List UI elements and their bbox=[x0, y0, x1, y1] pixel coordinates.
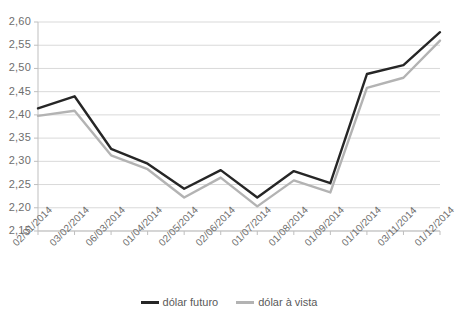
y-axis-label: 2,55 bbox=[9, 39, 31, 50]
y-axis-label: 2,30 bbox=[9, 155, 31, 166]
legend-item[interactable]: dólar futuro bbox=[141, 296, 219, 308]
y-axis-label: 2,50 bbox=[9, 62, 31, 73]
series-lines bbox=[38, 32, 440, 206]
legend-label: dólar futuro bbox=[163, 296, 219, 308]
y-axis-label: 2,20 bbox=[9, 202, 31, 213]
plot-area bbox=[0, 0, 458, 321]
line-chart: 2,602,552,502,452,402,352,302,252,202,15… bbox=[0, 0, 458, 321]
series-line-dolar-a-vista bbox=[38, 41, 440, 207]
y-axis-label: 2,25 bbox=[9, 179, 31, 190]
legend-swatch-icon bbox=[141, 301, 159, 304]
y-axis-label: 2,35 bbox=[9, 132, 31, 143]
gridlines bbox=[38, 22, 440, 231]
legend-item[interactable]: dólar à vista bbox=[236, 296, 317, 308]
y-axis-label: 2,45 bbox=[9, 86, 31, 97]
legend-swatch-icon bbox=[236, 301, 254, 304]
y-axis-label: 2,40 bbox=[9, 109, 31, 120]
x-axis-ticks bbox=[34, 22, 440, 235]
chart-legend: dólar futurodólar à vista bbox=[0, 296, 458, 308]
legend-label: dólar à vista bbox=[258, 296, 317, 308]
y-axis-label: 2,60 bbox=[9, 16, 31, 27]
